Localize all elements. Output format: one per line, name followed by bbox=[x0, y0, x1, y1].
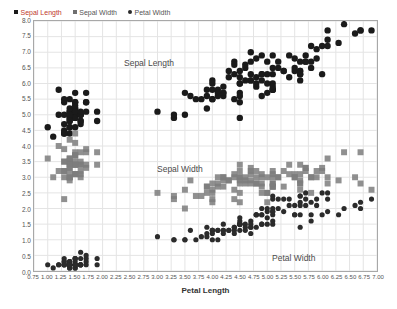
data-point bbox=[325, 156, 331, 162]
y-tick-label: 1.5 bbox=[1, 221, 31, 228]
legend-item-petal-width[interactable]: Petal Width bbox=[128, 9, 170, 16]
data-point bbox=[237, 93, 243, 99]
data-point bbox=[325, 197, 330, 202]
data-point bbox=[78, 250, 83, 255]
data-point bbox=[264, 58, 270, 64]
data-point bbox=[209, 181, 215, 187]
y-tick-label: 5.0 bbox=[1, 111, 31, 118]
data-point bbox=[78, 159, 84, 165]
y-tick-label: 7.0 bbox=[1, 48, 31, 55]
data-point bbox=[259, 71, 265, 77]
data-point bbox=[270, 71, 276, 77]
data-point bbox=[72, 108, 78, 114]
data-point bbox=[264, 80, 270, 86]
data-point bbox=[237, 115, 243, 121]
y-axis-ticks: 0.00.51.01.52.02.53.03.54.04.55.05.56.06… bbox=[0, 20, 31, 272]
data-point bbox=[231, 196, 237, 202]
data-point bbox=[324, 37, 330, 43]
data-point bbox=[209, 187, 215, 193]
data-point bbox=[313, 55, 319, 61]
data-point bbox=[259, 212, 264, 217]
legend-item-sepal-length[interactable]: Sepal Length bbox=[14, 9, 62, 16]
data-point bbox=[248, 165, 254, 171]
data-point bbox=[187, 93, 193, 99]
data-point bbox=[314, 203, 319, 208]
data-point bbox=[209, 87, 215, 93]
data-point bbox=[61, 168, 67, 174]
data-point bbox=[281, 209, 286, 214]
data-point bbox=[297, 77, 303, 83]
data-point bbox=[286, 162, 292, 168]
data-point bbox=[302, 52, 308, 58]
data-point bbox=[66, 96, 72, 102]
data-point bbox=[154, 190, 160, 196]
data-point bbox=[309, 200, 314, 205]
plot-area bbox=[33, 20, 378, 272]
data-point bbox=[77, 118, 83, 124]
data-point bbox=[84, 253, 89, 258]
data-point bbox=[248, 171, 254, 177]
data-point bbox=[313, 46, 319, 52]
data-point bbox=[83, 108, 89, 114]
data-point bbox=[281, 168, 287, 174]
data-point bbox=[199, 234, 204, 239]
data-point bbox=[336, 212, 341, 217]
data-point bbox=[253, 74, 259, 80]
data-point bbox=[72, 131, 78, 137]
data-point bbox=[221, 228, 226, 233]
data-point bbox=[242, 77, 248, 83]
data-point bbox=[237, 99, 243, 105]
data-point bbox=[270, 52, 276, 58]
data-point bbox=[221, 222, 226, 227]
y-tick-label: 7.5 bbox=[1, 32, 31, 39]
data-point bbox=[67, 165, 73, 171]
data-point bbox=[264, 174, 270, 180]
data-point bbox=[368, 27, 374, 33]
data-point bbox=[237, 174, 243, 180]
data-point bbox=[94, 149, 100, 155]
data-point bbox=[50, 174, 56, 180]
legend-item-sepal-width[interactable]: Sepal Width bbox=[73, 9, 117, 16]
data-point bbox=[264, 71, 270, 77]
data-point bbox=[72, 124, 78, 130]
data-point bbox=[298, 225, 303, 230]
data-point bbox=[237, 199, 243, 205]
data-point bbox=[358, 200, 363, 205]
data-point bbox=[237, 215, 242, 220]
data-point bbox=[171, 112, 177, 118]
data-point bbox=[341, 149, 347, 155]
legend-swatch-square-icon bbox=[14, 10, 18, 14]
chart-legend: Sepal LengthSepal WidthPetal Width bbox=[14, 6, 170, 18]
data-point bbox=[248, 58, 254, 64]
data-point bbox=[254, 225, 259, 230]
data-point bbox=[270, 65, 276, 71]
data-point bbox=[231, 96, 237, 102]
data-point bbox=[237, 80, 243, 86]
data-point bbox=[259, 222, 264, 227]
data-point bbox=[61, 112, 67, 118]
data-point bbox=[72, 162, 78, 168]
data-point bbox=[72, 115, 78, 121]
data-point bbox=[83, 149, 89, 155]
data-point bbox=[357, 27, 363, 33]
x-axis-title: Petal Length bbox=[33, 286, 378, 295]
data-point bbox=[309, 218, 314, 223]
data-point bbox=[215, 237, 220, 242]
data-point bbox=[182, 90, 188, 96]
data-point bbox=[56, 112, 62, 118]
data-point bbox=[358, 149, 364, 155]
data-point bbox=[253, 80, 259, 86]
data-point bbox=[61, 96, 67, 102]
data-point bbox=[231, 71, 237, 77]
data-point bbox=[265, 222, 270, 227]
data-point bbox=[67, 174, 73, 180]
legend-label: Sepal Width bbox=[79, 9, 117, 16]
data-point bbox=[215, 90, 221, 96]
data-point bbox=[286, 171, 292, 177]
y-tick-label: 1.0 bbox=[1, 237, 31, 244]
annotation-sepal-width: Sepal Width bbox=[157, 164, 203, 174]
x-tick-label: 7.00 bbox=[367, 273, 389, 281]
data-point bbox=[204, 184, 210, 190]
data-point bbox=[243, 225, 248, 230]
data-point bbox=[264, 199, 270, 205]
